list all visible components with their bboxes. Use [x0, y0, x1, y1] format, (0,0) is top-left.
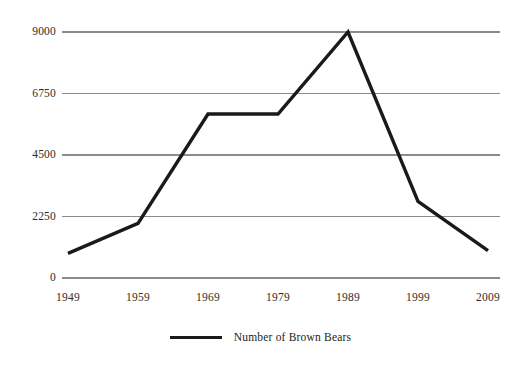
x-tick-label-1949: 1949 [38, 291, 98, 303]
y-tick-label-4500: 4500 [8, 148, 56, 160]
x-tick-label-2009: 2009 [458, 291, 518, 303]
legend-line-swatch [170, 336, 222, 339]
y-tick-label-0: 0 [8, 271, 56, 283]
chart-plot-area [0, 0, 521, 366]
y-tick-label-2250: 2250 [8, 210, 56, 222]
y-tick-label-9000: 9000 [8, 25, 56, 37]
x-tick-label-1969: 1969 [178, 291, 238, 303]
series-line-number-of-brown-bears [68, 32, 488, 253]
chart-legend: Number of Brown Bears [0, 326, 521, 348]
gridlines [62, 32, 500, 278]
x-tick-label-1999: 1999 [388, 291, 448, 303]
y-tick-label-6750: 6750 [8, 87, 56, 99]
legend-label-number-of-brown-bears: Number of Brown Bears [234, 331, 352, 343]
x-tick-label-1959: 1959 [108, 291, 168, 303]
x-tick-label-1979: 1979 [248, 291, 308, 303]
x-tick-label-1989: 1989 [318, 291, 378, 303]
line-chart-figure: 9000 6750 4500 2250 0 1949 1959 1969 197… [0, 0, 521, 366]
